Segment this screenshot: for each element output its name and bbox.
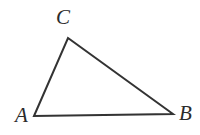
vertex-label-a: A: [15, 105, 28, 126]
triangle-outline: [34, 38, 173, 116]
vertex-label-b: B: [179, 103, 192, 124]
triangle-svg-canvas: [0, 0, 200, 135]
vertex-label-c: C: [56, 7, 70, 28]
triangle-diagram: A B C: [0, 0, 200, 135]
